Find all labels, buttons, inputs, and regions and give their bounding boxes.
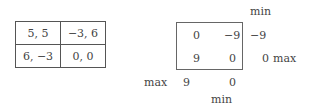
- payoff-row: 5, 5 −3, 6: [16, 22, 106, 45]
- matrix-cell: 0: [193, 29, 200, 42]
- row-max-label: max: [273, 52, 296, 65]
- col-max-value: 9: [183, 76, 190, 89]
- matrix-cell: 9: [193, 52, 200, 65]
- payoff-cell: 6, −3: [16, 45, 61, 68]
- row-min-value: −9: [250, 29, 266, 42]
- payoff-cell: 5, 5: [16, 22, 61, 45]
- col-min-label: min: [211, 93, 232, 106]
- col-max-label: max: [144, 76, 167, 89]
- payoff-cell: 0, 0: [61, 45, 106, 68]
- row-min-header: min: [250, 5, 271, 18]
- matrix-cell: 0: [229, 52, 236, 65]
- payoff-cell: −3, 6: [61, 22, 106, 45]
- col-max-value: 0: [229, 76, 236, 89]
- payoff-row: 6, −3 0, 0: [16, 45, 106, 68]
- row-min-value: 0: [262, 52, 269, 65]
- payoff-matrix: 5, 5 −3, 6 6, −3 0, 0: [15, 21, 106, 68]
- matrix-cell: −9: [224, 29, 240, 42]
